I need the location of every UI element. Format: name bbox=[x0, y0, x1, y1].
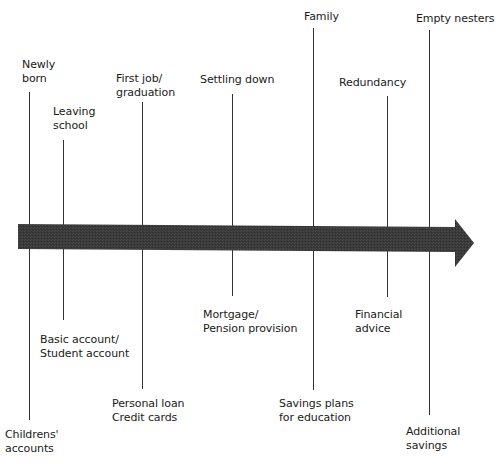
life-stages-timeline-diagram: Newly born Leaving school First job/ gra… bbox=[0, 0, 503, 464]
product-label-financial-advice: Financial advice bbox=[355, 308, 402, 336]
stage-label-settling-down: Settling down bbox=[200, 73, 274, 87]
stage-label-leaving-school: Leaving school bbox=[53, 105, 95, 133]
stage-label-newly-born: Newly born bbox=[22, 58, 55, 86]
stage-label-family: Family bbox=[304, 10, 339, 24]
product-label-mortgage: Mortgage/ Pension provision bbox=[203, 308, 297, 336]
stage-label-redundancy: Redundancy bbox=[339, 76, 406, 90]
product-label-additional-savings: Additional savings bbox=[406, 425, 460, 453]
timeline-arrow-icon bbox=[0, 0, 503, 464]
product-label-childrens-accounts: Childrens' accounts bbox=[5, 428, 59, 456]
stage-label-first-job: First job/ graduation bbox=[116, 72, 175, 100]
product-label-basic-account: Basic account/ Student account bbox=[40, 333, 129, 361]
product-label-savings-plans: Savings plans for education bbox=[279, 397, 354, 425]
product-label-personal-loan: Personal loan Credit cards bbox=[112, 397, 184, 425]
stage-label-empty-nesters: Empty nesters bbox=[416, 12, 494, 26]
